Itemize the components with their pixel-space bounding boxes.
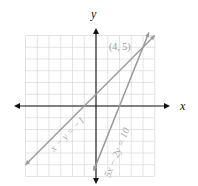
x-axis-right-arrow-icon (164, 103, 170, 109)
x-axis-left-arrow-icon (14, 103, 20, 109)
x-axis-label: x (179, 99, 186, 113)
intersection-label: (4, 5) (109, 41, 131, 53)
coordinate-plane: x y (4, 5) x − y = −1 5x − 2y = 10 (0, 0, 198, 186)
line1-label: x − y = −1 (47, 114, 87, 154)
y-axis-down-arrow-icon (93, 178, 99, 184)
y-axis-up-arrow-icon (93, 28, 99, 34)
line2-label: 5x − 2y = 10 (102, 126, 132, 179)
series-line-1 (26, 36, 155, 165)
series-layer (26, 33, 155, 171)
y-axis-label: y (90, 7, 97, 21)
